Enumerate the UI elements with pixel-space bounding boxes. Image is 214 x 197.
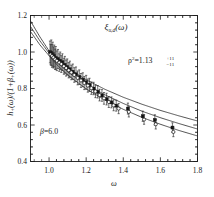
scatter-plot: 1.01.21.41.61.80.40.60.81.01.2ξu,d(ω)ρ2=…	[0, 0, 214, 197]
data-point-circle	[172, 130, 175, 133]
annotation-beta: β=6.0	[39, 127, 58, 136]
data-point-circle	[94, 90, 97, 93]
data-point-circle	[83, 81, 86, 84]
data-point-circle	[70, 71, 73, 74]
data-point-circle	[76, 76, 79, 79]
data-point-circle	[117, 107, 120, 110]
y-tick-label: 0.6	[18, 121, 28, 130]
data-point-circle	[86, 84, 89, 87]
x-axis-label: ω	[111, 179, 117, 188]
annotation-rho-error-dn: −11	[167, 62, 175, 67]
x-tick-label: 1.0	[44, 166, 54, 175]
data-point-circle	[154, 123, 157, 126]
data-point-circle	[79, 79, 82, 82]
x-tick-label: 1.4	[119, 166, 129, 175]
y-tick-label: 0.4	[18, 157, 28, 166]
x-tick-label: 1.6	[156, 166, 166, 175]
figure-container: 1.01.21.41.61.80.40.60.81.01.2ξu,d(ω)ρ2=…	[0, 0, 214, 197]
data-point-circle	[112, 104, 115, 107]
y-tick-label: 1.2	[18, 11, 28, 20]
data-point-circle	[102, 97, 105, 100]
y-tick-label: 1.0	[18, 48, 28, 57]
data-point-circle	[142, 118, 145, 121]
data-point-circle	[90, 87, 93, 90]
data-point-circle	[98, 93, 101, 96]
plot-title: ξu,d(ω)	[105, 22, 128, 33]
y-tick-label: 0.8	[18, 84, 28, 93]
x-tick-label: 1.2	[81, 166, 91, 175]
annotation-rho-squared: ρ2=1.13	[128, 56, 153, 65]
y-axis-label: h+(ω)/(1+β+(ω))	[6, 60, 16, 116]
x-tick-label: 1.8	[193, 166, 203, 175]
plot-frame	[31, 16, 198, 162]
data-point-circle	[73, 73, 76, 76]
data-point-circle	[107, 100, 110, 103]
data-point-circle	[127, 110, 130, 113]
annotation-rho-error-up: +11	[167, 56, 175, 61]
